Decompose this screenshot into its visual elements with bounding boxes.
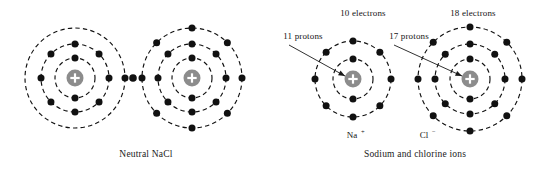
electron-dot	[189, 95, 196, 102]
electron-dot	[350, 56, 357, 63]
electron-dot	[432, 76, 439, 83]
electron-dot	[430, 112, 437, 119]
electron-dot	[153, 110, 160, 117]
annotation-11-protons-label: 11 protons	[283, 31, 323, 41]
electron-dot	[239, 75, 246, 82]
electron-dot	[350, 96, 357, 103]
electron-dot	[312, 76, 319, 83]
annotation-10-electrons-label: 10 electrons	[340, 8, 386, 18]
caption-left-group: Neutral NaCl	[119, 149, 172, 159]
electron-dot	[323, 49, 330, 56]
electron-dot	[376, 102, 383, 109]
annotation-17-protons-label: 17 protons	[389, 31, 429, 41]
electron-dot	[164, 50, 171, 57]
electron-dot	[72, 55, 79, 62]
electron-dot	[224, 110, 231, 117]
electron-dot	[467, 128, 474, 135]
electron-dot	[467, 56, 474, 63]
electron-dot	[467, 111, 474, 118]
sodium-ion-charge: +	[361, 128, 365, 135]
electron-dot	[189, 125, 196, 132]
caption-right-group: Sodium and chlorine ions	[364, 149, 466, 159]
electron-dot	[467, 96, 474, 103]
electron-dot	[72, 41, 79, 48]
chloride-ion-charge: −	[432, 128, 436, 135]
electron-dot	[503, 112, 510, 119]
electron-dot	[47, 99, 54, 106]
annotation-18-electrons-label: 18 electrons	[450, 8, 496, 18]
electron-dot	[430, 39, 437, 46]
annotation-protons-right: 17 protons	[389, 31, 429, 41]
electron-dot	[442, 100, 449, 107]
electron-dot	[47, 50, 54, 57]
neutral-chlorine-atom	[139, 25, 246, 132]
electron-dot	[189, 41, 196, 48]
electron-dot	[139, 75, 146, 82]
electron-dot	[164, 99, 171, 106]
electron-dot	[519, 76, 526, 83]
electron-dot	[323, 102, 330, 109]
sodium-ion-symbol: Na	[347, 130, 358, 140]
electron-dot	[491, 51, 498, 58]
electron-dot	[96, 99, 103, 106]
electron-dot	[223, 75, 230, 82]
electron-dot	[503, 39, 510, 46]
electron-dot	[467, 41, 474, 48]
electron-dot	[491, 100, 498, 107]
bonding-electron	[129, 74, 137, 82]
electron-dot	[38, 75, 45, 82]
electron-dot	[189, 55, 196, 62]
electron-dot	[106, 75, 113, 82]
electron-dot	[189, 25, 196, 32]
electron-dot	[376, 49, 383, 56]
electron-dot	[350, 114, 357, 121]
electron-dot	[224, 39, 231, 46]
electron-dot	[155, 75, 162, 82]
electron-dot	[442, 51, 449, 58]
caption-neutral-nacl: Neutral NaCl	[119, 149, 172, 159]
electron-dot	[213, 99, 220, 106]
chloride-ion-symbol: Cl	[420, 130, 429, 140]
electron-dot	[72, 95, 79, 102]
electron-dot	[122, 75, 129, 82]
electron-dot	[415, 76, 422, 83]
electron-dot	[467, 24, 474, 31]
atomic-structure-figure: 10 electrons 18 electrons 11 protons 17 …	[0, 0, 550, 169]
electron-dot	[72, 109, 79, 116]
bohr-model-diagram: 10 electrons 18 electrons 11 protons 17 …	[0, 0, 550, 169]
annotation-electrons-left: 10 electrons	[340, 8, 386, 18]
electron-dot	[189, 109, 196, 116]
electron-dot	[153, 39, 160, 46]
electron-dot	[388, 76, 395, 83]
electron-dot	[502, 76, 509, 83]
electron-dot	[213, 50, 220, 57]
caption-sodium-chlorine-ions: Sodium and chlorine ions	[364, 149, 466, 159]
electron-dot	[350, 38, 357, 45]
electron-dot	[96, 50, 103, 57]
annotation-electrons-right: 18 electrons	[450, 8, 496, 18]
shared-electrons-layer	[129, 74, 137, 82]
annotation-protons-left: 11 protons	[283, 31, 323, 41]
